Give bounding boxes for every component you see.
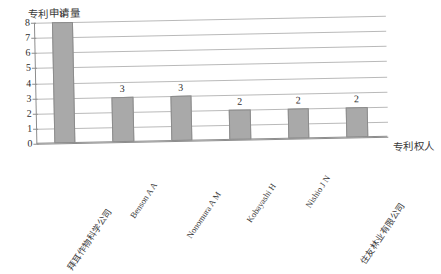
bar-group[interactable]: 8 bbox=[51, 22, 75, 143]
bar[interactable] bbox=[346, 107, 369, 138]
x-axis-title: 专利权人 bbox=[392, 138, 434, 154]
bar-group[interactable]: 2 bbox=[344, 16, 368, 137]
bar[interactable] bbox=[229, 109, 252, 140]
bar-chart-figure: 专利申请量 专利权人 012345678 833222 拜耳作物科学公司Bens… bbox=[0, 0, 441, 228]
category-label: 拜耳作物科学公司 bbox=[67, 207, 115, 272]
y-axis-tick-label: 1 bbox=[27, 123, 32, 133]
bar[interactable] bbox=[170, 95, 193, 141]
plot-area: 012345678 833222 拜耳作物科学公司Benson A ANonom… bbox=[34, 16, 387, 144]
y-axis-tick bbox=[33, 144, 38, 145]
y-axis-tick-label: 2 bbox=[27, 108, 32, 118]
bar[interactable] bbox=[51, 22, 75, 143]
bar-value-label: 2 bbox=[287, 95, 309, 105]
bar-value-label: 3 bbox=[170, 82, 192, 92]
category-label: Nonomura A M bbox=[186, 190, 224, 240]
category-label: Nishio J N bbox=[305, 174, 333, 210]
bar-value-label: 2 bbox=[229, 96, 251, 106]
bar-value-label: 3 bbox=[111, 83, 133, 93]
category-label: Benson A A bbox=[129, 181, 159, 220]
y-axis-tick-label: 4 bbox=[26, 78, 31, 88]
bar-group[interactable]: 2 bbox=[285, 17, 309, 138]
bar-group[interactable]: 2 bbox=[227, 18, 251, 139]
y-axis-tick-label: 3 bbox=[26, 93, 31, 103]
bar-value-label: 8 bbox=[51, 9, 73, 19]
bar-group[interactable]: 3 bbox=[168, 20, 192, 141]
category-label: Kobayashi H bbox=[245, 182, 278, 224]
category-label: 住友林业有限公司 bbox=[359, 201, 407, 266]
y-axis-tick-label: 6 bbox=[25, 48, 30, 58]
bar-group[interactable]: 3 bbox=[110, 21, 134, 142]
bar[interactable] bbox=[287, 108, 310, 139]
y-axis-tick-label: 8 bbox=[25, 18, 30, 28]
y-axis-tick-label: 0 bbox=[27, 139, 32, 149]
bar-value-label: 2 bbox=[345, 94, 367, 104]
y-axis-tick-label: 5 bbox=[26, 63, 31, 73]
y-axis-tick-label: 7 bbox=[25, 33, 30, 43]
bar[interactable] bbox=[111, 96, 134, 142]
bar-series: 833222 bbox=[34, 16, 387, 144]
